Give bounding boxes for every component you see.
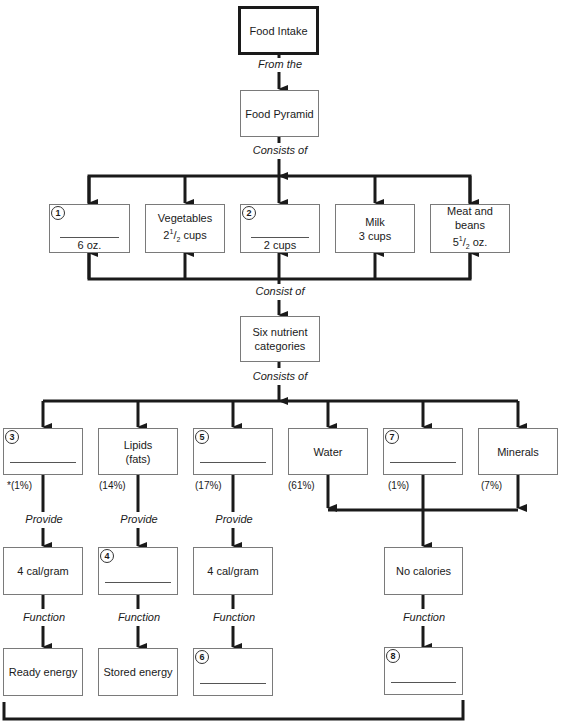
consists-of-label-1: Consists of	[244, 144, 316, 156]
provide-label: Provide	[18, 513, 70, 525]
number-badge: 7	[385, 430, 399, 444]
number-badge: 6	[195, 650, 209, 664]
calories-none: No calories	[384, 547, 463, 595]
food-pyramid-box: Food Pyramid	[240, 90, 319, 137]
provide-label: Provide	[208, 513, 260, 525]
food-group-meat-beans: Meat and beans 51/2 oz.	[430, 204, 510, 253]
function-label: Function	[111, 611, 167, 623]
nutrient-blank-3[interactable]: 3	[3, 428, 83, 475]
nutrient-name: Water	[314, 445, 343, 459]
nutrient-minerals: Minerals	[478, 428, 558, 475]
blank-line[interactable]	[200, 462, 266, 463]
food-group-amount: 6 oz.	[50, 238, 129, 252]
function-blank-8[interactable]: 8	[384, 647, 463, 695]
six-nutrient-box: Six nutrient categories	[240, 316, 320, 362]
nutrient-name-sub: (fats)	[125, 452, 150, 466]
food-group-name: Meat and beans	[431, 204, 509, 232]
food-group-vegetables: Vegetables 21/2 cups	[145, 204, 225, 253]
number-badge: 4	[100, 549, 114, 563]
provide-label: Provide	[113, 513, 165, 525]
function-text: Stored energy	[103, 665, 172, 679]
calories-blank-4[interactable]: 4	[98, 547, 178, 595]
function-ready-energy: Ready energy	[3, 648, 83, 696]
number-badge: 1	[51, 206, 65, 220]
from-the-label: From the	[249, 58, 311, 70]
blank-line[interactable]	[200, 683, 266, 684]
nutrient-percent: (14%)	[99, 480, 126, 491]
calories-carbohydrate: 4 cal/gram	[3, 547, 83, 595]
function-label: Function	[16, 611, 72, 623]
food-group-amount: 21/2 cups	[163, 225, 206, 247]
calories-protein: 4 cal/gram	[193, 547, 273, 595]
six-nutrient-line2: categories	[255, 339, 306, 353]
calories-text: No calories	[396, 564, 451, 578]
function-blank-6[interactable]: 6	[193, 648, 273, 696]
food-group-name: Vegetables	[158, 211, 212, 225]
function-label: Function	[396, 611, 452, 623]
calories-text: 4 cal/gram	[207, 564, 258, 578]
nutrient-name: Minerals	[497, 445, 539, 459]
consist-of-label: Consist of	[246, 285, 314, 297]
function-text: Ready energy	[9, 665, 78, 679]
food-group-blank-2[interactable]: 2 2 cups	[240, 204, 320, 253]
calories-text: 4 cal/gram	[17, 564, 68, 578]
food-group-name: Milk	[365, 215, 385, 229]
nutrient-percent: (61%)	[288, 480, 315, 491]
number-badge: 3	[5, 430, 19, 444]
nutrient-percent: (17%)	[195, 480, 222, 491]
food-group-blank-1[interactable]: 1 6 oz.	[49, 204, 130, 253]
nutrient-percent: (1%)	[388, 480, 409, 491]
food-group-milk: Milk 3 cups	[335, 204, 415, 253]
food-pyramid-label: Food Pyramid	[245, 107, 313, 121]
nutrient-lipids: Lipids (fats)	[98, 428, 178, 475]
food-intake-label: Food Intake	[249, 24, 307, 38]
blank-line[interactable]	[390, 462, 456, 463]
nutrient-percent: *(1%)	[7, 480, 32, 491]
food-group-amount: 2 cups	[241, 238, 319, 252]
six-nutrient-line1: Six nutrient	[252, 325, 307, 339]
number-badge: 2	[242, 206, 256, 220]
function-stored-energy: Stored energy	[98, 648, 178, 696]
food-group-amount: 3 cups	[359, 229, 391, 243]
blank-line[interactable]	[10, 462, 76, 463]
nutrient-water: Water	[288, 428, 368, 475]
number-badge: 8	[386, 649, 400, 663]
nutrient-blank-5[interactable]: 5	[193, 428, 273, 475]
blank-line[interactable]	[105, 582, 171, 583]
function-label: Function	[206, 611, 262, 623]
nutrient-name: Lipids	[124, 438, 153, 452]
number-badge: 5	[195, 430, 209, 444]
nutrient-percent: (7%)	[481, 480, 502, 491]
nutrient-blank-7[interactable]: 7	[383, 428, 463, 475]
blank-line[interactable]	[391, 682, 456, 683]
consists-of-label-2: Consists of	[244, 370, 316, 382]
food-group-amount: 51/2 oz.	[453, 232, 488, 254]
food-intake-box: Food Intake	[238, 6, 319, 55]
